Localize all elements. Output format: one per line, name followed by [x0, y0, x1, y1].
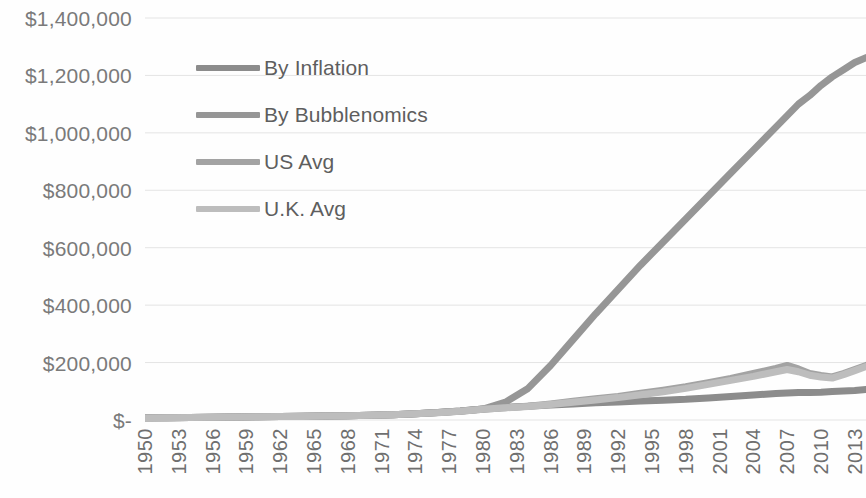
x-axis-tick-label: 1968	[338, 428, 358, 475]
x-axis-tick-label: 1995	[642, 428, 662, 475]
line-chart: $1,400,000$1,200,000$1,000,000$800,000$6…	[0, 0, 866, 498]
legend-item-label: By Bubblenomics	[264, 104, 428, 125]
y-axis-tick-label: $800,000	[6, 180, 132, 201]
legend-item-label: U.K. Avg	[264, 198, 346, 219]
x-axis-tick-label: 1980	[473, 428, 493, 475]
x-axis-tick-label: 2013	[845, 428, 865, 475]
x-axis-tick-label: 1998	[676, 428, 696, 475]
y-axis-tick-label: $-	[6, 410, 132, 431]
legend-item[interactable]: U.K. Avg	[196, 185, 496, 232]
legend-swatch-icon	[196, 159, 260, 165]
x-axis-tick-label: 2001	[710, 428, 730, 475]
x-axis-tick-label: 1965	[304, 428, 324, 475]
legend-item[interactable]: US Avg	[196, 138, 496, 185]
chart-legend: By InflationBy BubblenomicsUS AvgU.K. Av…	[196, 44, 496, 232]
x-axis-tick-label: 1953	[169, 428, 189, 475]
y-axis-tick-label: $1,000,000	[6, 122, 132, 143]
x-axis-tick-label: 1983	[507, 428, 527, 475]
x-axis-tick-label: 1992	[608, 428, 628, 475]
x-axis-tick-label: 1956	[203, 428, 223, 475]
x-axis-tick-label: 1962	[270, 428, 290, 475]
x-axis: 1950195319561959196219651968197119741977…	[145, 428, 866, 498]
y-axis-tick-label: $600,000	[6, 237, 132, 258]
x-axis-tick-label: 1959	[236, 428, 256, 475]
y-axis: $1,400,000$1,200,000$1,000,000$800,000$6…	[0, 0, 132, 498]
x-axis-tick-label: 1989	[574, 428, 594, 475]
x-axis-tick-label: 1986	[541, 428, 561, 475]
legend-swatch-icon	[196, 112, 260, 118]
legend-item[interactable]: By Bubblenomics	[196, 91, 496, 138]
legend-item-label: US Avg	[264, 151, 334, 172]
legend-swatch-icon	[196, 65, 260, 71]
y-axis-tick-label: $400,000	[6, 295, 132, 316]
y-axis-tick-label: $1,400,000	[6, 8, 132, 29]
y-axis-tick-label: $1,200,000	[6, 65, 132, 86]
y-axis-tick-label: $200,000	[6, 352, 132, 373]
x-axis-tick-label: 2004	[743, 428, 763, 475]
x-axis-tick-label: 2007	[777, 428, 797, 475]
x-axis-tick-label: 1977	[439, 428, 459, 475]
legend-item[interactable]: By Inflation	[196, 44, 496, 91]
x-axis-tick-label: 1971	[372, 428, 392, 475]
x-axis-tick-label: 2010	[811, 428, 831, 475]
legend-item-label: By Inflation	[264, 57, 369, 78]
x-axis-tick-label: 1950	[135, 428, 155, 475]
x-axis-tick-label: 1974	[405, 428, 425, 475]
legend-swatch-icon	[196, 206, 260, 212]
